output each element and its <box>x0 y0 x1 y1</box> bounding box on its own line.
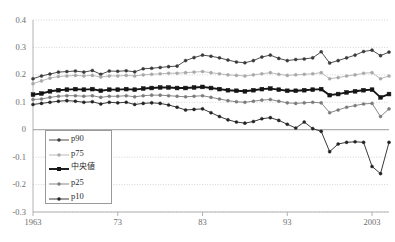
legend-item-median: 中央値 <box>46 160 111 175</box>
y-tick-label: 0.3 <box>0 42 26 52</box>
legend-line-marker-icon <box>48 161 70 173</box>
legend-item-label: p90 <box>71 134 84 143</box>
legend-item-p90: p90 <box>46 131 111 146</box>
y-tick-label: 0.1 <box>0 97 26 107</box>
x-tick-label: 73 <box>98 217 138 227</box>
legend-line-marker-icon <box>48 132 70 144</box>
y-tick-label: -0.1 <box>0 152 26 162</box>
chart-legend: p90p75中央値p25p10 <box>45 130 112 204</box>
x-tick-label: 93 <box>267 217 307 227</box>
legend-line-marker-icon <box>48 191 70 203</box>
percentile-line-chart: 0.40.30.20.10-0.1-0.2-0.3 19637383932003… <box>0 0 395 242</box>
y-tick-label: 0.2 <box>0 69 26 79</box>
plot-area <box>0 0 395 242</box>
legend-item-label: 中央値 <box>71 163 95 171</box>
y-tick-label: 0.4 <box>0 15 26 25</box>
legend-item-p10: p10 <box>46 189 111 204</box>
x-tick-label: 1963 <box>13 217 53 227</box>
legend-item-label: p10 <box>71 192 84 201</box>
legend-item-p75: p75 <box>46 146 111 161</box>
legend-item-label: p25 <box>71 178 84 187</box>
legend-line-marker-icon <box>48 176 70 188</box>
x-tick-label: 83 <box>183 217 223 227</box>
x-tick-label: 2003 <box>352 217 392 227</box>
y-tick-label: -0.3 <box>0 207 26 217</box>
y-tick-label: 0 <box>0 124 26 134</box>
x-axis-ticks <box>33 212 372 216</box>
legend-item-label: p75 <box>71 149 84 158</box>
legend-line-marker-icon <box>48 147 70 159</box>
legend-item-p25: p25 <box>46 175 111 190</box>
y-tick-label: -0.2 <box>0 179 26 189</box>
